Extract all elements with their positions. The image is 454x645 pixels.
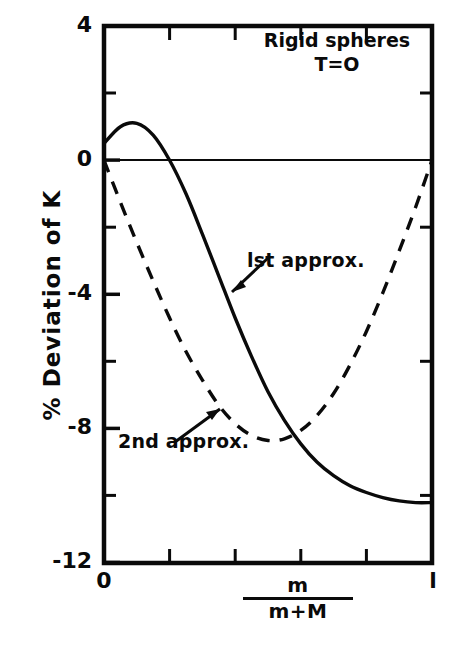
y-tick-label-minus12: -12 — [28, 548, 92, 573]
note-line-1: Rigid spheres — [248, 28, 426, 52]
figure-container: Rigid spheres T=O lst approx. 2nd approx… — [0, 0, 454, 645]
x-tick-label-0: 0 — [89, 568, 119, 593]
series-line-second-approx — [104, 160, 432, 440]
series-label-first-approx: lst approx. — [247, 249, 365, 271]
x-axis-title-numerator: m — [243, 575, 353, 597]
y-tick-label-0: 0 — [28, 146, 92, 171]
plot-note: Rigid spheres T=O — [248, 28, 426, 77]
x-tick-label-1: l — [418, 568, 448, 593]
x-axis-title: m m+M — [243, 575, 353, 622]
x-axis-title-denominator: m+M — [243, 597, 353, 622]
series-label-second-approx: 2nd approx. — [118, 430, 249, 452]
note-line-2: T=O — [248, 52, 426, 76]
y-axis-title: % Deviation of K — [39, 175, 65, 435]
plot-frame — [104, 26, 432, 563]
y-major-ticks — [104, 26, 120, 563]
y-tick-label-4: 4 — [28, 12, 92, 37]
